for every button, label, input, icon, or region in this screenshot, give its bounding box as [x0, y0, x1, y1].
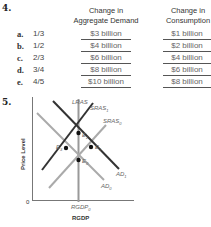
equilibrium-e1 — [89, 145, 93, 149]
equilibrium-e3 — [64, 146, 68, 150]
sras1-label: SRAS1 — [90, 105, 109, 113]
y-axis-label: Price Level — [20, 138, 26, 170]
equilibrium-e2 — [76, 131, 80, 135]
sras0-label: SRAS0 — [103, 118, 122, 126]
origin-label: 0 — [26, 199, 30, 205]
as-ad-chart: LRAS SRAS1 SRAS0 AD1 AD0 E2 E3 E1 E0 0 R… — [0, 0, 211, 227]
e2-label: E2 — [82, 132, 89, 140]
ad0-label: AD0 — [100, 183, 112, 191]
ad0-line — [37, 113, 104, 180]
e0-label: E0 — [82, 158, 89, 166]
equilibrium-e0 — [76, 158, 80, 162]
e1-label: E1 — [95, 144, 101, 152]
ad1-label: AD1 — [115, 171, 127, 179]
x-axis-label: RGDP — [72, 215, 89, 221]
rgdp0-tick-label: RGDP0 — [71, 204, 91, 212]
lras-label: LRAS — [72, 99, 88, 105]
